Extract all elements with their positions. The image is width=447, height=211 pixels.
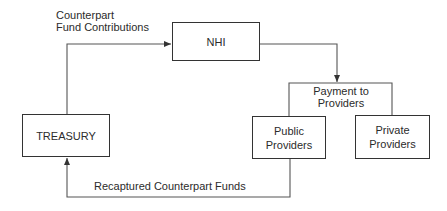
nhi-node: NHI [172,22,260,61]
treasury-label: TREASURY [36,129,96,143]
payment-to-providers-label: Payment to Providers [296,85,386,109]
arrow-nhi-to-payment [260,44,337,82]
counterpart-contributions-label: Counterpart Fund Contributions [56,9,149,33]
payment-label-line2: Providers [296,97,386,109]
arrow-treasury-to-nhi [67,44,171,114]
payment-label-line1: Payment to [296,85,386,97]
counterpart-label-line2: Fund Contributions [56,21,149,33]
public-providers-node: Public Providers [252,116,326,159]
treasury-node: TREASURY [22,114,110,157]
private-providers-line1: Private [375,123,409,137]
flow-diagram: Counterpart Fund Contributions NHI Payme… [0,0,447,211]
public-providers-line2: Providers [266,138,312,152]
nhi-label: NHI [207,35,226,49]
private-providers-line2: Providers [369,137,415,151]
private-providers-node: Private Providers [355,115,430,159]
public-providers-line1: Public [274,124,304,138]
counterpart-label-line1: Counterpart [56,9,149,21]
recaptured-funds-label: Recaptured Counterpart Funds [94,180,246,192]
